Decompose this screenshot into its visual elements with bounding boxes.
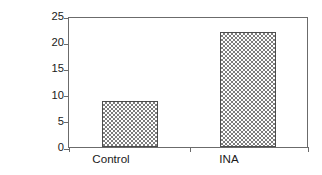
bar-chart-figure: nanogram jasmonic acid/fresh weight 0 5 … <box>0 0 322 175</box>
y-tick-label-5: 5 <box>38 116 64 127</box>
y-tick-label-20: 20 <box>38 38 64 49</box>
y-tick-mark-25 <box>64 18 69 19</box>
plot-area <box>68 17 308 148</box>
y-tick-mark-15 <box>64 70 69 71</box>
y-tick-mark-20 <box>64 44 69 45</box>
x-category-label-ina: INA <box>189 153 269 165</box>
y-axis-tick-labels: 0 5 10 15 20 25 <box>38 0 64 175</box>
x-tick-mark-left <box>69 147 70 152</box>
x-tick-mark-right <box>308 147 309 152</box>
y-tick-mark-10 <box>64 96 69 97</box>
y-tick-label-10: 10 <box>38 90 64 101</box>
y-tick-label-0: 0 <box>38 142 64 153</box>
bar-control <box>102 101 158 147</box>
y-tick-label-15: 15 <box>38 64 64 75</box>
x-category-label-control: Control <box>71 153 151 165</box>
bar-ina <box>220 32 276 147</box>
y-tick-label-25: 25 <box>38 11 64 22</box>
y-tick-mark-5 <box>64 122 69 123</box>
x-tick-mark-divider <box>190 147 191 152</box>
